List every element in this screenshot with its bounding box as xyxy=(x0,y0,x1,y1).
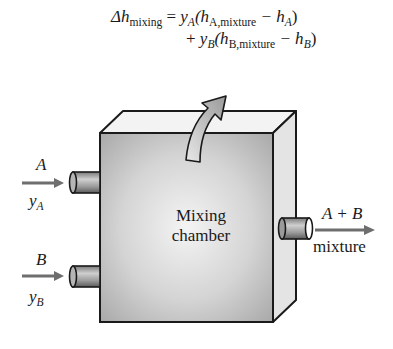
mole-fraction-ya-sub: A xyxy=(188,16,195,29)
mixing-enthalpy-equation-line-1: Δhmixing = yA(hA,mixture − hA) xyxy=(111,8,297,29)
enthalpy-a-mixture-sub: A,mixture xyxy=(209,16,256,29)
mole-fraction-ya: y xyxy=(180,7,188,26)
outlet-arrow-icon xyxy=(315,225,375,235)
enthalpy-b-mixture-sub: B,mixture xyxy=(229,38,276,51)
enthalpy-b-pure-sub: B xyxy=(304,38,311,51)
enthalpy-a-pure-sub: A xyxy=(285,16,292,29)
outlet-pipe xyxy=(279,218,313,239)
inlet-arrow-a-icon xyxy=(22,178,64,188)
inlet-pipe-b xyxy=(70,266,101,287)
enthalpy-b-mixture: (h xyxy=(214,29,228,48)
inlet-pipe-a xyxy=(70,172,101,193)
inlet-b-fraction-symbol: y xyxy=(29,287,37,306)
inlet-arrow-b-icon xyxy=(22,271,64,281)
close-paren: ) xyxy=(311,29,317,48)
inlet-a-fraction-sub: A xyxy=(37,200,44,213)
equals-sign: = xyxy=(162,7,180,26)
close-paren: ) xyxy=(292,7,298,26)
inlet-b-fraction-label: yB xyxy=(29,288,44,309)
inlet-a-fraction-symbol: y xyxy=(29,191,37,210)
enthalpy-b-pure: − h xyxy=(275,29,303,48)
inlet-a-species-label: A xyxy=(36,156,46,173)
plus-sign: + xyxy=(186,29,200,48)
inlet-b-species-label: B xyxy=(36,251,46,268)
inlet-a-fraction-label: yA xyxy=(29,192,44,213)
chamber-side-face xyxy=(273,111,296,322)
chamber-label-line-1: Mixing xyxy=(141,206,261,226)
enthalpy-a-pure: − h xyxy=(256,7,284,26)
chamber-label: Mixing chamber xyxy=(141,206,261,246)
outlet-species-label: A + B xyxy=(322,205,362,222)
mixing-chamber-diagram xyxy=(0,0,393,349)
delta-h-symbol: Δh xyxy=(111,7,129,26)
delta-h-subscript: mixing xyxy=(129,16,162,29)
enthalpy-a-mixture: (h xyxy=(195,7,209,26)
inlet-b-fraction-sub: B xyxy=(37,296,44,309)
outlet-mixture-label: mixture xyxy=(313,238,366,255)
chamber-label-line-2: chamber xyxy=(141,226,261,246)
mixing-enthalpy-equation-line-2: + yB(hB,mixture − hB) xyxy=(186,30,316,51)
